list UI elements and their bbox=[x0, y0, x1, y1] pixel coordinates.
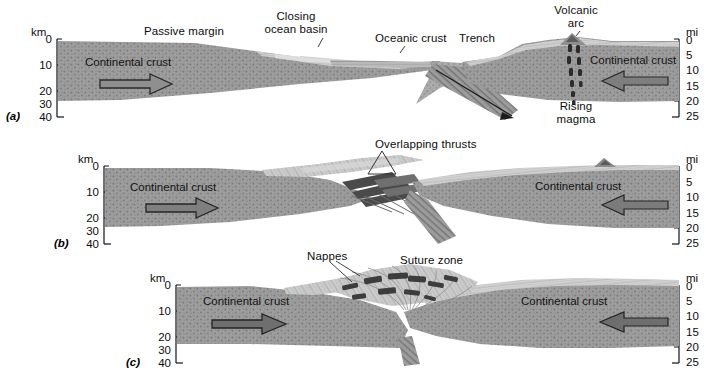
label-trench: Trench bbox=[459, 32, 495, 45]
panel-b-right-tick-20: 20 bbox=[686, 222, 699, 235]
label-continental-crust-c-right: Continental crust bbox=[521, 295, 607, 307]
label-oceanic-crust: Oceanic crust bbox=[375, 32, 447, 45]
panel-b-left-tick-40: 40 bbox=[67, 238, 99, 251]
panel-b-left-tick-10: 10 bbox=[67, 186, 99, 199]
panel-b-right-tick-0: 0 bbox=[686, 161, 692, 174]
panel-label-c: (c) bbox=[126, 356, 140, 368]
label-overlapping-thrusts: Overlapping thrusts bbox=[375, 138, 477, 151]
panel-b-right-tick-25: 25 bbox=[686, 237, 699, 250]
panel-c-artwork bbox=[176, 261, 679, 366]
label-nappes: Nappes bbox=[307, 250, 347, 263]
panel-a-left-tick-40: 40 bbox=[20, 111, 52, 124]
panel-a-left-tick-10: 10 bbox=[20, 59, 52, 72]
panel-c-right-tick-25: 25 bbox=[686, 356, 699, 369]
label-closing-ocean-basin: Closing ocean basin bbox=[258, 10, 334, 35]
panel-a-right-tick-5: 5 bbox=[686, 49, 692, 62]
label-volcanic-arc: Volcanic arc bbox=[545, 4, 607, 29]
panel-a-left-tick-20: 20 bbox=[20, 85, 52, 98]
panel-b-right-tick-5: 5 bbox=[686, 176, 692, 189]
label-continental-crust-b-right: Continental crust bbox=[535, 180, 621, 192]
label-continental-crust-a-right: Continental crust bbox=[590, 54, 676, 66]
panel-a-right-tick-20: 20 bbox=[686, 95, 699, 108]
panel-a-right-tick-0: 0 bbox=[686, 34, 692, 47]
panel-c-right-tick-0: 0 bbox=[686, 280, 692, 293]
panel-c-left-tick-10: 10 bbox=[139, 305, 171, 318]
panel-b-left-tick-30: 30 bbox=[67, 225, 99, 238]
label-continental-crust-a-left: Continental crust bbox=[85, 56, 171, 68]
figure-geologic-cross-sections: (a) km 0 10 20 30 40 mi 0 5 10 15 20 25 … bbox=[0, 0, 721, 379]
panel-c-left-tick-40: 40 bbox=[139, 357, 171, 370]
label-continental-crust-c-left: Continental crust bbox=[203, 295, 289, 307]
panel-a-left-tick-0: 0 bbox=[20, 33, 52, 46]
panel-c-right-tick-20: 20 bbox=[686, 341, 699, 354]
panel-b-artwork bbox=[104, 151, 679, 244]
panel-b-right-tick-10: 10 bbox=[686, 191, 699, 204]
label-suture-zone: Suture zone bbox=[400, 254, 463, 267]
panel-a-right-tick-15: 15 bbox=[686, 80, 699, 93]
panel-a-left-tick-30: 30 bbox=[20, 98, 52, 111]
label-rising-magma: Rising magma bbox=[545, 100, 607, 125]
panel-b-left-tick-20: 20 bbox=[67, 212, 99, 225]
panel-a-right-tick-10: 10 bbox=[686, 64, 699, 77]
label-passive-margin: Passive margin bbox=[144, 25, 224, 38]
panel-c-right-tick-15: 15 bbox=[686, 326, 699, 339]
panel-c-left-tick-30: 30 bbox=[139, 344, 171, 357]
panel-label-a: (a) bbox=[6, 110, 20, 122]
panel-a-right-tick-25: 25 bbox=[686, 110, 699, 123]
panel-c-left-tick-0: 0 bbox=[139, 279, 171, 292]
panel-b-right-tick-15: 15 bbox=[686, 207, 699, 220]
panel-c-right-tick-10: 10 bbox=[686, 310, 699, 323]
panel-c-right-tick-5: 5 bbox=[686, 295, 692, 308]
label-continental-crust-b-left: Continental crust bbox=[130, 181, 216, 193]
panel-c-left-tick-20: 20 bbox=[139, 331, 171, 344]
panel-b-left-tick-0: 0 bbox=[67, 160, 99, 173]
